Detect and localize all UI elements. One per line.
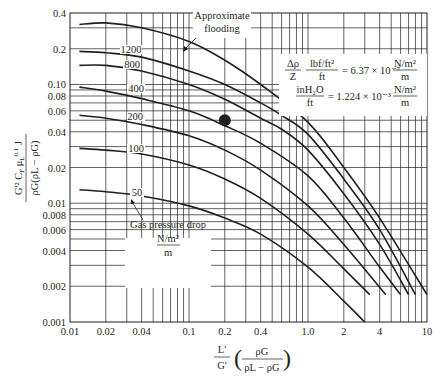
flood-label-line2: flooding <box>204 23 240 34</box>
operating-point-marker <box>219 114 231 126</box>
gpd-label-bg <box>125 238 211 288</box>
svg-text:N/m²: N/m² <box>394 84 416 95</box>
y-label-numerator: G'² CF μL0.1 J <box>12 141 26 195</box>
label-200: 200 <box>127 111 143 122</box>
x-tick-label: 10 <box>422 326 433 337</box>
svg-text:ρL − ρG: ρL − ρG <box>244 362 280 373</box>
label-800: 800 <box>124 59 140 70</box>
svg-text:inH₂O: inH₂O <box>297 84 324 95</box>
label-100: 100 <box>128 143 144 154</box>
y-axis-label: G'² CF μL0.1 J ρG(ρL − ρG) <box>12 134 41 202</box>
y-tick-label: 0.004 <box>42 246 66 257</box>
y-tick-label: 0.006 <box>42 225 66 236</box>
curve-50 <box>79 190 364 322</box>
svg-text:ρG: ρG <box>256 346 269 357</box>
svg-text:Z: Z <box>290 71 296 82</box>
label-400: 400 <box>128 83 144 94</box>
label-50: 50 <box>132 187 143 198</box>
y-label-denominator: ρG(ρL − ρG) <box>29 140 41 196</box>
svg-text:): ) <box>283 345 291 371</box>
x-tick-label: 2 <box>341 326 346 337</box>
svg-text:G': G' <box>217 360 227 371</box>
x-tick-label: 0.02 <box>97 326 115 337</box>
svg-text:ft: ft <box>319 71 325 82</box>
y-tick-label: 0.002 <box>42 281 66 292</box>
x-tick-label: 0.2 <box>218 326 231 337</box>
y-tick-label: 0.02 <box>48 163 66 174</box>
y-tick-label: 0.008 <box>42 210 66 221</box>
gpd-unit-den: m <box>164 247 172 258</box>
y-tick-label: 0.001 <box>42 317 66 328</box>
x-axis-label: L' G' ( ρG ρL − ρG ) <box>214 344 291 373</box>
gpd-unit-num: N/m² <box>157 233 179 244</box>
y-tick-label: 0.01 <box>48 198 66 209</box>
svg-text:= 6.37 × 10⁻⁷: = 6.37 × 10⁻⁷ <box>342 65 401 76</box>
flood-label-line1: Approximate <box>194 10 250 21</box>
x-tick-label: 0.1 <box>182 326 195 337</box>
svg-text:(: ( <box>234 345 242 371</box>
svg-text:lbf/ft²: lbf/ft² <box>310 58 334 69</box>
svg-text:m: m <box>401 97 409 108</box>
svg-text:Δρ: Δρ <box>287 58 299 69</box>
y-tick-label: 0.08 <box>48 91 66 102</box>
x-tick-label: 1.0 <box>301 326 314 337</box>
y-tick-label: 0.04 <box>48 127 67 138</box>
svg-text:= 1.224 × 10⁻³: = 1.224 × 10⁻³ <box>328 91 391 102</box>
label-1200: 1200 <box>121 44 142 55</box>
gpd-label: Gas pressure drop <box>130 219 206 230</box>
y-tick-label: 0.2 <box>53 44 66 55</box>
svg-text:N/m²: N/m² <box>394 58 416 69</box>
x-tick-label: 0.04 <box>132 326 151 337</box>
packed-tower-pressure-drop-chart: 0.010.020.040.10.20.41.024100.0010.0020.… <box>0 0 437 387</box>
x-tick-label: 4 <box>377 326 383 337</box>
svg-text:L': L' <box>218 344 226 355</box>
y-tick-label: 0.06 <box>48 106 66 117</box>
y-tick-label: 0.10 <box>48 79 66 90</box>
svg-text:ft: ft <box>307 97 313 108</box>
svg-text:m: m <box>401 71 409 82</box>
y-tick-label: 0.4 <box>53 8 67 19</box>
x-tick-label: 0.4 <box>254 326 268 337</box>
